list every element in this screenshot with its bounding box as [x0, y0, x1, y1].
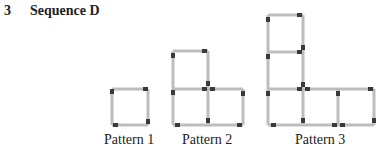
pattern-2-label: Pattern 2: [182, 132, 232, 148]
pattern-1-label: Pattern 1: [104, 132, 154, 148]
pattern-2-matchsticks: [171, 49, 245, 127]
matchstick-diagram: .s{stroke:#bdbdbd;stroke-width:3;stroke-…: [0, 0, 384, 154]
pattern-3-label: Pattern 3: [295, 132, 345, 148]
pattern-3-matchsticks: [266, 13, 376, 127]
pattern-1-matchsticks: [110, 87, 150, 127]
